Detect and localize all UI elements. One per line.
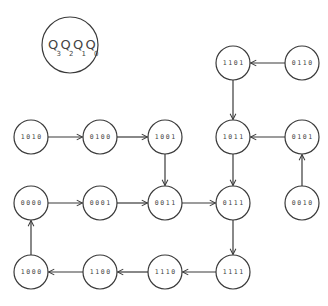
state-label: 0000 (21, 199, 43, 207)
state-label: 0001 (90, 199, 112, 207)
state-nodes: 1101011010100100100110110101000000010011… (14, 46, 319, 289)
state-node-0010: 0010 (285, 186, 319, 220)
state-label: 1001 (155, 133, 177, 141)
state-label: 1000 (21, 268, 43, 276)
state-diagram: Q3Q2Q1Q0 1101011010100100100110110101000… (0, 0, 328, 306)
state-node-0110: 0110 (285, 46, 319, 80)
state-node-1000: 1000 (14, 255, 48, 289)
state-label: 1110 (155, 268, 177, 276)
state-label: 1011 (223, 133, 245, 141)
state-node-1100: 1100 (83, 255, 117, 289)
state-label: 1010 (21, 133, 43, 141)
state-label: 1101 (223, 59, 245, 67)
state-node-0011: 0011 (148, 186, 182, 220)
state-node-0101: 0101 (285, 120, 319, 154)
state-label: 0011 (155, 199, 177, 207)
state-label: 0100 (90, 133, 112, 141)
transition-edges (31, 63, 302, 272)
state-label: 1100 (90, 268, 112, 276)
state-node-0001: 0001 (83, 186, 117, 220)
state-node-1001: 1001 (148, 120, 182, 154)
state-label: 0110 (292, 59, 314, 67)
state-label: 0111 (223, 199, 245, 207)
state-node-0000: 0000 (14, 186, 48, 220)
state-node-0100: 0100 (83, 120, 117, 154)
state-node-1101: 1101 (216, 46, 250, 80)
state-label: 0101 (292, 133, 314, 141)
legend-subscript: 0 (94, 50, 98, 58)
state-node-1011: 1011 (216, 120, 250, 154)
state-node-0111: 0111 (216, 186, 250, 220)
state-node-1110: 1110 (148, 255, 182, 289)
state-label: 1111 (223, 268, 245, 276)
state-node-1010: 1010 (14, 120, 48, 154)
state-label: 0010 (292, 199, 314, 207)
state-bit-order-legend: Q3Q2Q1Q0 (42, 17, 98, 73)
state-node-1111: 1111 (216, 255, 250, 289)
